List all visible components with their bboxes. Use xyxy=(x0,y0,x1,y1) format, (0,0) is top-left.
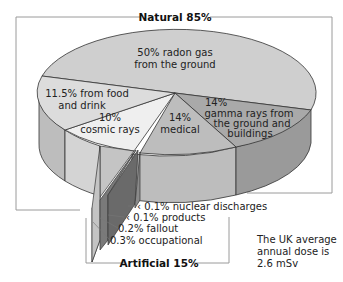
artificial-label: Artificial 15% xyxy=(119,257,198,269)
cosmic-label-2: cosmic rays xyxy=(80,124,139,135)
cosmic-label-1: 10% xyxy=(99,112,121,123)
radon-label-2: from the ground xyxy=(134,59,215,70)
radiation-pie-chart: Natural 85% Artificial 15% 50% radon gas… xyxy=(0,0,343,282)
medical-label-1: 14% xyxy=(169,112,191,123)
fallout-label: 0.2% fallout xyxy=(118,223,178,234)
occupational-label: 0.3% occupational xyxy=(110,235,203,246)
food-label-2: and drink xyxy=(58,100,106,111)
medical-label-2: medical xyxy=(160,124,199,135)
note-line-3: 2.6 mSv xyxy=(257,258,298,269)
radon-label-1: 50% radon gas xyxy=(137,47,212,58)
products-label: ‹ 0.1% products xyxy=(126,212,205,223)
natural-label: Natural 85% xyxy=(138,11,211,23)
nuclear-discharges-label: ‹ 0.1% nuclear discharges xyxy=(137,201,267,212)
note-line-2: annual dose is xyxy=(257,246,329,257)
food-label-1: 11.5% from food xyxy=(45,88,129,99)
note-line-1: The UK average xyxy=(256,234,337,245)
gamma-label-4: buildings xyxy=(227,128,272,139)
gamma-label-1: 14% xyxy=(205,97,227,108)
